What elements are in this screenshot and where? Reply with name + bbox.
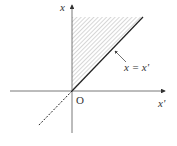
dashed-extension	[38, 91, 72, 126]
diagram-svg	[0, 0, 177, 146]
diagram-canvas: x x = x' O x'	[0, 0, 177, 146]
vertical-axis-label: x	[60, 2, 65, 13]
line-label: x = x'	[124, 62, 149, 73]
origin-label: O	[76, 95, 84, 106]
horizontal-axis-label: x'	[158, 98, 165, 109]
